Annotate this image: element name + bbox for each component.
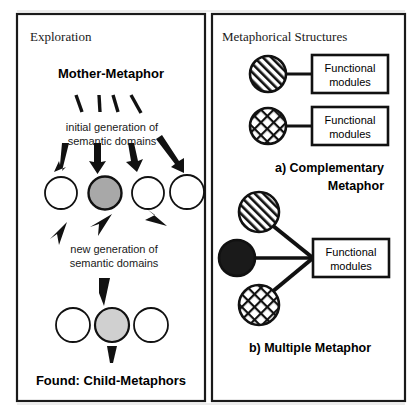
functional-modules-box-b-line1: Functional: [326, 246, 377, 258]
left-panel-title: Exploration: [30, 29, 92, 44]
node-a1: [45, 177, 77, 209]
node-crosshatch-b: [239, 285, 279, 325]
node-b3: [134, 308, 168, 342]
found-child-metaphors-label: Found: Child-Metaphors: [36, 373, 186, 388]
structure-b-label: b) Multiple Metaphor: [249, 341, 371, 355]
new-generation-caption-line1: new generation of: [70, 243, 158, 255]
node-solid-black-b: [219, 240, 255, 276]
functional-modules-box-a1-line2: modules: [329, 76, 371, 88]
initial-generation-caption-line2: semantic domains: [68, 135, 157, 147]
node-a2: [89, 177, 122, 210]
initial-generation-caption-line1: initial generation of: [66, 121, 159, 133]
node-b2: [95, 308, 129, 342]
functional-modules-box-a2-line2: modules: [329, 128, 371, 140]
structure-a-label-line2: Metaphor: [328, 179, 384, 193]
row-b-nodes: [56, 308, 168, 342]
diagram-canvas: Exploration Mother-Metaphor initial gene…: [0, 0, 419, 415]
mother-metaphor-heading: Mother-Metaphor: [58, 66, 164, 81]
structure-a-label-line1: a) Complementary: [275, 161, 384, 175]
structure-a-row-1: Functional modules: [250, 55, 388, 93]
structure-a-row-2: Functional modules: [250, 107, 388, 145]
node-crosshatch-a2: [250, 108, 286, 144]
functional-modules-box-a2-line1: Functional: [325, 114, 376, 126]
node-b1: [56, 308, 90, 342]
figure-root: Exploration Mother-Metaphor initial gene…: [0, 0, 419, 415]
new-generation-caption-line2: semantic domains: [70, 257, 159, 269]
stroke-2: [99, 95, 100, 112]
node-striped-a1: [250, 56, 286, 92]
functional-modules-box-b-line2: modules: [330, 260, 372, 272]
right-panel-title: Metaphorical Structures: [222, 29, 347, 44]
node-striped-b: [239, 192, 279, 232]
node-a3: [132, 177, 164, 209]
functional-modules-box-a1-line1: Functional: [325, 62, 376, 74]
node-a4: [170, 175, 204, 209]
